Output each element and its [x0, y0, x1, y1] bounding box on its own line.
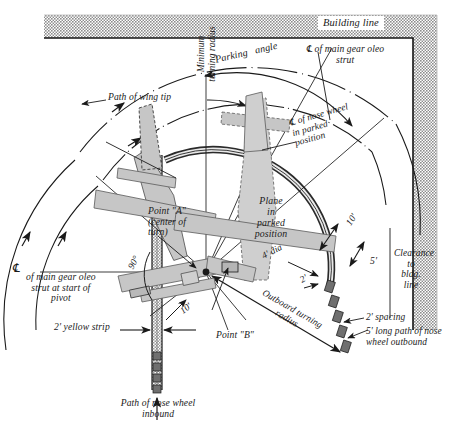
point-b-label: Point "B" [216, 330, 254, 341]
nose-wheel-outbound-path [324, 280, 351, 353]
yellow-strip-label: 2' yellow strip [54, 322, 110, 333]
main-gear-oleo-strut-top-label: ℄ of main gear oleo strut [306, 44, 384, 65]
point-a-label: Point "A" (center of turn) [148, 206, 186, 238]
diagram-vector-layer [0, 0, 454, 436]
spacing-2-label: 2' spacing [366, 312, 405, 323]
diagram-canvas: Building line ℄ of main gear oleo strut … [0, 0, 454, 436]
center-of-turn-marker [203, 269, 210, 276]
path-of-nose-wheel-inbound-label: Path of nose wheel inbound [96, 398, 220, 419]
dim-5-right [350, 242, 364, 266]
clearance-to-bldg-line-label: Clearance to bldg. line [394, 248, 428, 290]
main-gear-oleo-strut-pivot-label: of main gear oleo strut at start of pivo… [26, 272, 96, 304]
wing-tip-path-arc [4, 68, 420, 350]
path-of-wing-tip-label: Path of wing tip [108, 92, 171, 103]
parking-angle-inner-arc [207, 100, 246, 106]
minimum-turning-radius-label: Minimum turning radius [196, 8, 217, 100]
cl-symbol-left: ℄ [12, 262, 20, 275]
point-b-marker [222, 262, 238, 272]
dim-2-mid [304, 284, 318, 288]
plane-in-parked-position-label: Plane in parked position [240, 196, 302, 240]
long-path-nose-wheel-label: 5' long path of nose wheel outbound [366, 326, 442, 347]
building-line-label: Building line [318, 16, 384, 30]
dim-5-label: 5' [370, 256, 377, 267]
